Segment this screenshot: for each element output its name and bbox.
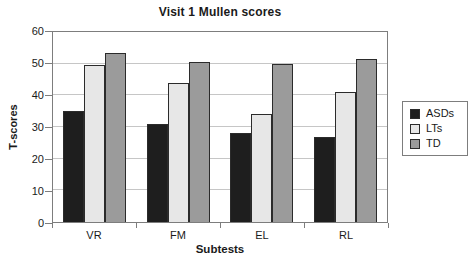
- y-tick-mark-10: [45, 191, 52, 192]
- y-tick-label-0: 0: [14, 217, 44, 229]
- y-tick-mark-50: [45, 63, 52, 64]
- y-tick-mark-20: [45, 159, 52, 160]
- legend-item-asds: ASDs: [410, 108, 463, 119]
- bar-lts-fm: [168, 83, 189, 222]
- y-tick-label-30: 30: [14, 121, 44, 133]
- legend-swatch-icon: [410, 109, 420, 119]
- bar-group-vr: [53, 32, 137, 222]
- legend-item-lts: LTs: [410, 123, 463, 134]
- legend-label: LTs: [426, 123, 442, 134]
- legend: ASDsLTsTD: [402, 101, 468, 156]
- x-tick-label-vr: VR: [74, 229, 114, 241]
- x-tick-mark-0: [52, 223, 53, 228]
- x-tick-mark-3: [304, 223, 305, 228]
- bar-asds-vr: [63, 111, 84, 222]
- x-tick-mark-2: [220, 223, 221, 228]
- x-tick-label-fm: FM: [158, 229, 198, 241]
- bar-td-vr: [105, 53, 126, 222]
- bar-asds-fm: [147, 124, 168, 222]
- y-tick-mark-0: [45, 223, 52, 224]
- chart-title: Visit 1 Mullen scores: [52, 5, 388, 19]
- plot-area: [52, 31, 388, 223]
- legend-swatch-icon: [410, 124, 420, 134]
- x-tick-label-el: EL: [242, 229, 282, 241]
- x-tick-label-rl: RL: [326, 229, 366, 241]
- legend-label: ASDs: [426, 108, 454, 119]
- x-axis-title: Subtests: [52, 243, 388, 255]
- bar-lts-rl: [335, 92, 356, 222]
- bar-group-fm: [137, 32, 221, 222]
- x-tick-mark-1: [136, 223, 137, 228]
- bar-group-el: [220, 32, 304, 222]
- y-tick-mark-40: [45, 95, 52, 96]
- legend-item-td: TD: [410, 138, 463, 149]
- legend-label: TD: [426, 138, 441, 149]
- bar-lts-vr: [84, 65, 105, 222]
- bar-asds-el: [230, 133, 251, 222]
- y-tick-mark-60: [45, 31, 52, 32]
- legend-swatch-icon: [410, 139, 420, 149]
- y-tick-label-40: 40: [14, 89, 44, 101]
- bar-asds-rl: [314, 137, 335, 223]
- y-tick-label-10: 10: [14, 185, 44, 197]
- bar-lts-el: [251, 114, 272, 222]
- y-tick-mark-30: [45, 127, 52, 128]
- bar-td-rl: [356, 59, 377, 222]
- bar-td-fm: [189, 62, 210, 222]
- bar-td-el: [272, 64, 293, 222]
- y-tick-label-50: 50: [14, 57, 44, 69]
- y-tick-label-20: 20: [14, 153, 44, 165]
- bar-chart-figure: Visit 1 Mullen scores T-scores 010203040…: [0, 0, 474, 263]
- x-tick-mark-4: [388, 223, 389, 228]
- bar-group-rl: [304, 32, 388, 222]
- y-tick-label-60: 60: [14, 25, 44, 37]
